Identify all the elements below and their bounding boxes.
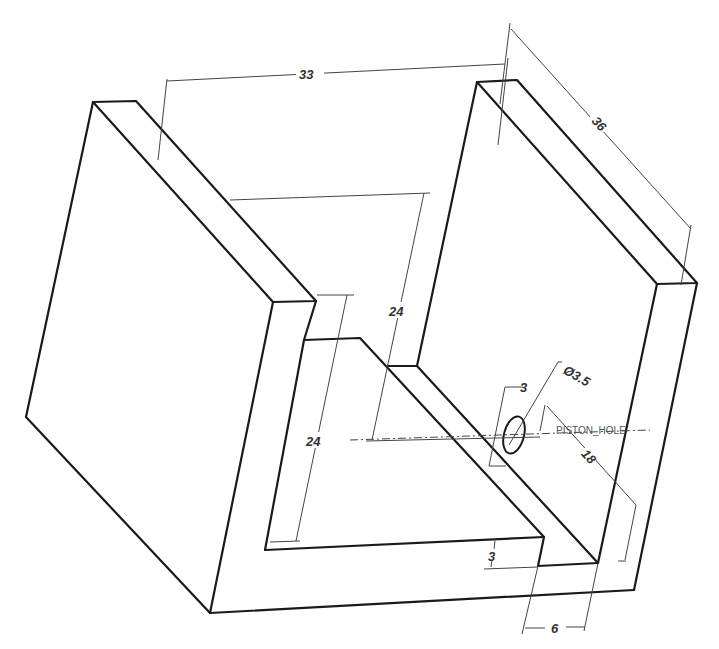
dimension-inner-height-back: 24	[230, 193, 540, 441]
left-inner-front-edge	[265, 340, 304, 550]
dim-inner-height-back-label: 24	[388, 304, 404, 319]
right-wall-inner-face-left-edge	[417, 82, 477, 366]
floor-front-top-edge	[265, 537, 544, 550]
left-wall	[26, 101, 316, 613]
dimension-floor-thickness: 3	[484, 541, 538, 569]
dimension-wall-thickness: 6	[522, 563, 598, 636]
floor-step-edges	[538, 537, 598, 566]
dimension-depth: 36	[500, 23, 691, 285]
cad-drawing-canvas: 33 36 24 24 3 Ø3.5 PISTON_	[0, 0, 719, 649]
right-wall-top-edges	[477, 80, 697, 284]
right-wall	[417, 80, 697, 590]
right-wall-base-edges	[388, 366, 598, 563]
left-wall-inner-edge	[304, 301, 316, 340]
piston-hole-label: PISTON_HOLE	[556, 425, 626, 436]
dim-wall-thickness-label: 6	[551, 621, 559, 636]
dim-width-label: 33	[299, 67, 314, 82]
dim-floor-thickness-label: 3	[488, 549, 496, 564]
dimension-overall-width: 33	[158, 58, 508, 160]
base-bottom-edge	[210, 590, 634, 613]
dimension-inner-height-front: 24	[270, 295, 354, 542]
dim-hole-diameter-label: Ø3.5	[561, 362, 594, 389]
right-wall-front-right-edge	[634, 283, 697, 590]
dim-hole-offset-label: 3	[520, 380, 528, 395]
dim-inner-height-front-label: 24	[305, 434, 321, 449]
dim-hole-position-label: 18	[578, 446, 599, 467]
